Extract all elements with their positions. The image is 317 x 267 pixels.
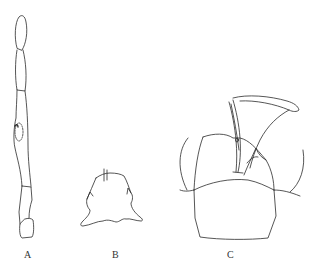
panel-label-b: B [112, 250, 119, 260]
illustration-figure: A B C [0, 0, 317, 267]
panel-a-antenna [14, 16, 34, 238]
line-drawing [0, 0, 317, 267]
panel-c-terminalia [180, 96, 304, 240]
panel-label-a: A [24, 250, 31, 260]
panel-label-c: C [227, 250, 234, 260]
panel-b-head [81, 169, 143, 226]
